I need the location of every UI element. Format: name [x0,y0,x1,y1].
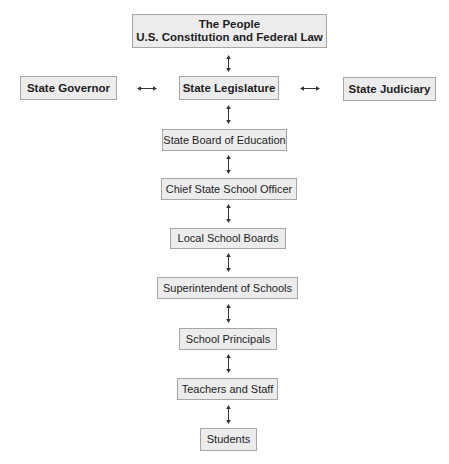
arrow-legislature-judiciary-icon [300,85,320,92]
box-local-school-boards: Local School Boards [170,228,286,249]
arrow-local-boards-superintendent-icon [225,253,232,272]
box-chief-state-school-officer: Chief State School Officer [161,178,297,200]
arrow-governor-legislature-icon [137,85,157,92]
the-people-label: The People [199,18,260,31]
box-state-judiciary: State Judiciary [343,77,436,101]
constitution-label: U.S. Constitution and Federal Law [136,31,323,44]
box-state-board-of-education: State Board of Education [162,129,287,151]
local-boards-label: Local School Boards [178,232,279,245]
teachers-label: Teachers and Staff [182,383,274,396]
state-judiciary-label: State Judiciary [349,83,431,96]
superintendent-label: Superintendent of Schools [163,282,292,295]
box-students: Students [200,428,257,451]
box-state-legislature: State Legislature [179,76,279,100]
state-board-label: State Board of Education [163,134,285,147]
box-school-principals: School Principals [179,328,277,350]
box-the-people: The People U.S. Constitution and Federal… [132,14,327,48]
chief-officer-label: Chief State School Officer [166,183,292,196]
students-label: Students [207,433,250,446]
state-legislature-label: State Legislature [183,82,276,95]
arrow-superintendent-principals-icon [225,304,232,323]
arrow-board-chief-icon [225,155,232,174]
box-teachers-and-staff: Teachers and Staff [177,378,278,400]
principals-label: School Principals [186,333,270,346]
box-superintendent-of-schools: Superintendent of Schools [157,277,298,299]
arrow-people-legislature-icon [225,55,232,72]
arrow-teachers-students-icon [225,405,232,424]
arrow-principals-teachers-icon [225,354,232,373]
state-governor-label: State Governor [27,82,110,95]
box-state-governor: State Governor [20,76,117,100]
arrow-chief-local-boards-icon [225,204,232,223]
arrow-legislature-board-icon [225,105,232,124]
